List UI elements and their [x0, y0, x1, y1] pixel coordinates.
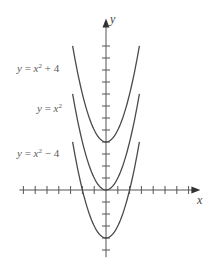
parabola-chart — [0, 0, 212, 272]
axes — [19, 18, 200, 257]
x-axis-label: x — [197, 194, 202, 206]
label-base: y = x2 — [37, 103, 62, 114]
label-shift-down: y = x2 − 4 — [17, 148, 59, 159]
y-axis-arrow-icon — [103, 18, 110, 27]
label-shift-up: y = x2 + 4 — [17, 63, 59, 74]
y-axis-label: y — [110, 13, 115, 25]
